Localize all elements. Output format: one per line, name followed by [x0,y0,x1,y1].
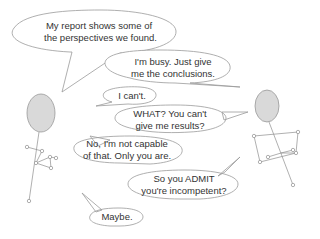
dialogue-1: My report shows some of the perspectives… [44,20,154,44]
dialogue-2-line1: I'm busy. Just give [118,56,228,68]
dialogue-4-line2: give me results? [120,120,220,132]
dialogue-6-line2: you're incompetent? [134,185,234,197]
dialogue-6-line1: So you ADMIT [134,173,234,185]
dialogue-3-line1: I can't. [108,90,156,102]
right-figure [252,90,299,187]
dialogue-1-line1: My report shows some of [44,20,154,32]
right-figure-head [255,90,279,122]
left-figure [25,94,57,203]
dialogue-4-line1: WHAT? You can't [120,108,220,120]
dialogue-3: I can't. [108,90,156,102]
dialogue-7: Maybe. [92,211,142,223]
left-figure-head [27,94,55,132]
dialogue-2-line2: me the conclusions. [118,68,228,80]
dialogue-4: WHAT? You can't give me results? [120,108,220,132]
dialogue-2: I'm busy. Just give me the conclusions. [118,56,228,80]
dialogue-5-line2: of that. Only you are. [72,150,182,162]
dialogue-6: So you ADMIT you're incompetent? [134,173,234,197]
dialogue-5-line1: No, I'm not capable [72,138,182,150]
dialogue-1-line2: the perspectives we found. [44,32,154,44]
dialogue-7-line1: Maybe. [92,211,142,223]
dialogue-5: No, I'm not capable of that. Only you ar… [72,138,182,162]
